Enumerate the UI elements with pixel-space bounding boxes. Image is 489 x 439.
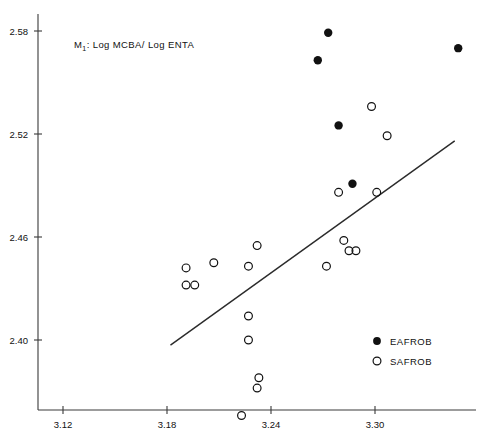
annotation-symbol: M [74, 39, 82, 50]
y-tick-label: 2.46 [10, 232, 29, 243]
y-tick-label: 2.58 [10, 26, 29, 37]
annotation-body: : Log MCBA/ Log ENTA [87, 39, 195, 50]
legend-label-eafrob: EAFROB [390, 336, 432, 347]
legend-label-safrob: SAFROB [390, 356, 432, 367]
data-point-eafrob [314, 56, 322, 64]
x-tick-label: 3.24 [262, 419, 281, 430]
x-tick-label: 3.12 [54, 419, 73, 430]
data-point-eafrob [334, 121, 342, 129]
plot-background [0, 0, 489, 439]
y-tick-label: 2.52 [10, 129, 29, 140]
scatter-plot-figure: 2.402.462.522.58 3.123.183.243.30 M1: Lo… [0, 0, 489, 439]
data-point-eafrob [324, 29, 332, 37]
y-tick-label: 2.40 [10, 335, 29, 346]
x-tick-label: 3.30 [366, 419, 385, 430]
data-point-eafrob [348, 180, 356, 188]
plot-canvas: 2.402.462.522.58 3.123.183.243.30 M1: Lo… [0, 0, 489, 439]
legend-marker-filled-circle-icon [373, 337, 381, 345]
data-point-eafrob [454, 44, 462, 52]
x-tick-label: 3.18 [158, 419, 177, 430]
